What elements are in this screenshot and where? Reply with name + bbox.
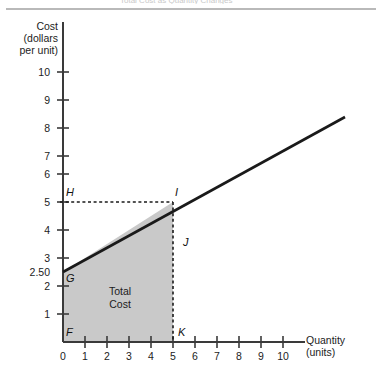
x-tick-label-0: 0: [53, 350, 73, 362]
y-tick-label-7: 7: [14, 150, 50, 162]
x-tick-label-4: 4: [141, 350, 161, 362]
x-tick-label-8: 8: [229, 350, 249, 362]
y-tick-label-2-50: 2.50: [6, 266, 50, 278]
total-cost-shaded-region: [63, 202, 173, 342]
x-tick-label-2: 2: [97, 350, 117, 362]
y-tick-label-8: 8: [14, 122, 50, 134]
x-tick-label-3: 3: [119, 350, 139, 362]
x-tick-label-7: 7: [207, 350, 227, 362]
plot-area: [0, 0, 385, 375]
point-label-G: G: [66, 272, 75, 284]
y-tick-label-4: 4: [14, 224, 50, 236]
total-cost-region-label: Total Cost: [95, 285, 145, 311]
y-tick-label-5: 5: [14, 196, 50, 208]
cost-line-series: [63, 117, 345, 272]
point-label-K: K: [178, 326, 185, 338]
point-label-F: F: [66, 326, 73, 338]
cost-quantity-figure: Total Cost as Quantity Changes Cost (dol…: [0, 0, 385, 375]
y-tick-label-6: 6: [14, 168, 50, 180]
point-label-I: I: [175, 186, 178, 198]
point-label-H: H: [66, 186, 74, 198]
x-tick-label-5: 5: [163, 350, 183, 362]
y-tick-label-1: 1: [14, 308, 50, 320]
point-label-J: J: [183, 236, 189, 248]
x-tick-label-9: 9: [251, 350, 271, 362]
x-tick-label-10: 10: [273, 350, 293, 362]
x-tick-label-1: 1: [75, 350, 95, 362]
y-tick-label-9: 9: [14, 94, 50, 106]
x-tick-label-6: 6: [185, 350, 205, 362]
y-tick-label-3: 3: [14, 252, 50, 264]
y-tick-label-10: 10: [14, 66, 50, 78]
y-tick-label-2: 2: [14, 280, 50, 292]
